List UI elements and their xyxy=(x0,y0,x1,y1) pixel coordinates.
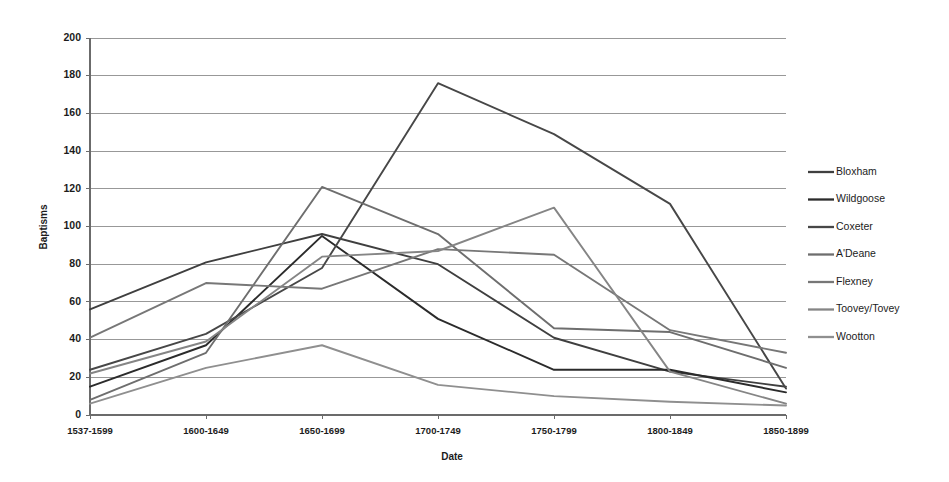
x-tick-label: 1850-1899 xyxy=(763,425,808,436)
legend: BloxhamWildgooseCoxeterA'DeaneFlexneyToo… xyxy=(808,165,900,342)
series-line-bloxham xyxy=(90,234,786,387)
y-axis-tick-labels: 020406080100120140160180200 xyxy=(63,31,90,420)
legend-item-bloxham[interactable]: Bloxham xyxy=(808,165,877,177)
y-tick-label: 200 xyxy=(63,31,81,43)
legend-label: Wootton xyxy=(836,330,875,342)
baptisms-line-chart: 020406080100120140160180200 1537-1599160… xyxy=(0,0,949,482)
legend-item-coxeter[interactable]: Coxeter xyxy=(808,220,873,232)
y-tick-label: 0 xyxy=(75,408,81,420)
x-tick-label: 1750-1799 xyxy=(531,425,576,436)
legend-item-toovey-tovey[interactable]: Toovey/Tovey xyxy=(808,302,900,314)
series-line-a-deane xyxy=(90,187,786,400)
y-tick-label: 60 xyxy=(69,295,81,307)
x-tick-label: 1537-1599 xyxy=(67,425,112,436)
y-tick-label: 20 xyxy=(69,370,81,382)
series-line-coxeter xyxy=(90,83,786,388)
x-axis-tick-labels: 1537-15991600-16491650-16991700-17491750… xyxy=(67,415,808,436)
y-tick-label: 120 xyxy=(63,182,81,194)
legend-item-a-deane[interactable]: A'Deane xyxy=(808,247,876,259)
series-group xyxy=(90,83,786,405)
x-tick-label: 1700-1749 xyxy=(415,425,460,436)
y-tick-label: 100 xyxy=(63,219,81,231)
x-tick-label: 1600-1649 xyxy=(183,425,228,436)
legend-label: Wildgoose xyxy=(836,192,885,204)
y-tick-label: 40 xyxy=(69,332,81,344)
legend-item-wildgoose[interactable]: Wildgoose xyxy=(808,192,885,204)
x-tick-label: 1800-1849 xyxy=(647,425,692,436)
legend-label: A'Deane xyxy=(836,247,876,259)
series-line-toovey-tovey xyxy=(90,208,786,404)
legend-label: Coxeter xyxy=(836,220,873,232)
x-axis-title: Date xyxy=(441,451,463,462)
legend-item-flexney[interactable]: Flexney xyxy=(808,275,874,287)
legend-label: Flexney xyxy=(836,275,874,287)
y-tick-label: 180 xyxy=(63,68,81,80)
y-tick-label: 140 xyxy=(63,144,81,156)
gridlines-group xyxy=(90,38,786,377)
legend-label: Bloxham xyxy=(836,165,877,177)
chart-canvas: 020406080100120140160180200 1537-1599160… xyxy=(0,0,949,482)
y-tick-label: 80 xyxy=(69,257,81,269)
x-tick-label: 1650-1699 xyxy=(299,425,344,436)
y-tick-label: 160 xyxy=(63,106,81,118)
y-axis-title: Baptisms xyxy=(38,204,49,249)
legend-item-wootton[interactable]: Wootton xyxy=(808,330,875,342)
series-line-wildgoose xyxy=(90,236,786,392)
legend-label: Toovey/Tovey xyxy=(836,302,900,314)
